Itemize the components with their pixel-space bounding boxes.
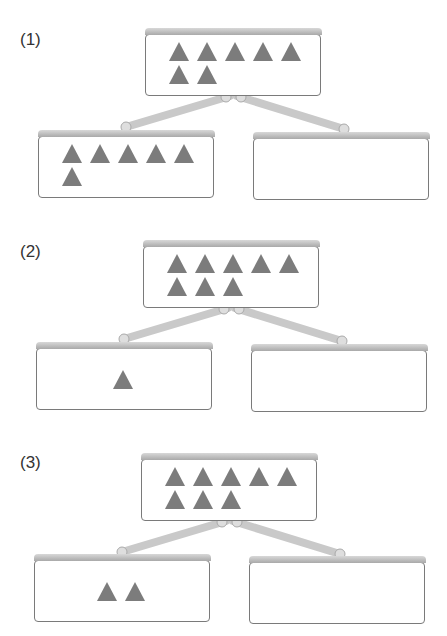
triangle-icon (169, 42, 189, 61)
whole-triangles (165, 467, 310, 509)
triangle-icon (197, 65, 217, 84)
triangle-icon (249, 467, 269, 486)
triangle-icon (253, 42, 273, 61)
triangle-icon (125, 582, 145, 601)
left-part-box (36, 348, 212, 410)
triangle-icon (223, 254, 243, 273)
triangle-icon (167, 277, 187, 296)
problem-1: (1) (0, 26, 447, 236)
triangle-icon (225, 42, 245, 61)
right-part-box-empty[interactable] (251, 350, 427, 412)
triangle-icon (174, 144, 194, 163)
whole-triangles (169, 42, 314, 84)
triangle-icon (197, 42, 217, 61)
whole-triangles (167, 254, 312, 296)
left-part-box (38, 136, 214, 198)
triangle-icon (223, 277, 243, 296)
triangle-icon (279, 254, 299, 273)
whole-box (145, 34, 321, 96)
left-part-triangles (62, 144, 207, 186)
triangle-icon (251, 254, 271, 273)
triangle-icon (193, 467, 213, 486)
triangle-icon (193, 490, 213, 509)
triangle-icon (167, 254, 187, 273)
problem-2: (2) (0, 238, 447, 448)
triangle-icon (97, 582, 117, 601)
triangle-icon (62, 144, 82, 163)
triangle-icon (165, 490, 185, 509)
triangle-icon (169, 65, 189, 84)
left-part-triangles (113, 370, 258, 389)
triangle-icon (221, 467, 241, 486)
triangle-icon (90, 144, 110, 163)
triangle-icon (195, 254, 215, 273)
right-part-box-empty[interactable] (253, 138, 429, 200)
left-part-box (34, 560, 210, 622)
triangle-icon (118, 144, 138, 163)
left-part-triangles (97, 582, 242, 601)
triangle-icon (165, 467, 185, 486)
triangle-icon (62, 167, 82, 186)
triangle-icon (146, 144, 166, 163)
triangle-icon (277, 467, 297, 486)
triangle-icon (113, 370, 133, 389)
whole-box (143, 246, 319, 308)
triangle-icon (281, 42, 301, 61)
triangle-icon (195, 277, 215, 296)
triangle-icon (221, 490, 241, 509)
whole-box (141, 459, 317, 521)
problem-3: (3) (0, 449, 447, 636)
right-part-box-empty[interactable] (249, 562, 425, 624)
